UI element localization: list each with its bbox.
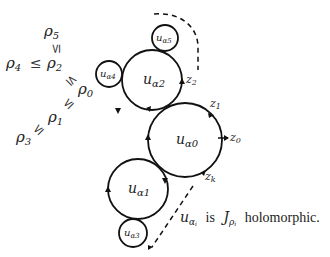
orientation-arrow-icon bbox=[115, 108, 121, 114]
label-u-alpha4: uα4 bbox=[100, 68, 116, 81]
bubble-tree-diagram: uα0 uα1 uα2 uα3 uα4 uα5 z0 z1 z2 zk ρ5 ≤… bbox=[0, 0, 330, 257]
orientation-arrow-icon bbox=[105, 186, 111, 192]
label-u-alpha2: uα2 bbox=[143, 71, 165, 89]
label-u-alpha1: uα1 bbox=[128, 180, 150, 198]
label-z2: z2 bbox=[185, 73, 197, 87]
orientation-arrow-icon bbox=[145, 134, 151, 140]
label-u-alpha0: uα0 bbox=[176, 131, 199, 149]
label-u-alpha5: uα5 bbox=[156, 32, 172, 45]
label-z0: z0 bbox=[229, 131, 241, 145]
leq-rho2-rho5: ≤ bbox=[48, 43, 63, 54]
rho-4: ρ4 bbox=[5, 54, 21, 73]
rho-3: ρ3 bbox=[15, 128, 31, 147]
orientation-arrow-icon bbox=[179, 78, 185, 84]
rho-2: ρ2 bbox=[46, 54, 62, 73]
leq-rho1-rho0: ≤ bbox=[59, 94, 77, 112]
label-u-alpha3: uα3 bbox=[124, 227, 140, 240]
caption: uαi is Jρi holomorphic. bbox=[180, 209, 320, 229]
label-zk: zk bbox=[204, 170, 216, 184]
label-z1: z1 bbox=[209, 97, 221, 111]
rho-1: ρ1 bbox=[47, 108, 63, 127]
rho-5: ρ5 bbox=[43, 22, 59, 41]
z0-arrow-icon bbox=[224, 135, 229, 141]
rho-0: ρ0 bbox=[77, 80, 94, 99]
leq-rho4-rho2: ≤ bbox=[30, 55, 42, 71]
leq-rho3-rho1: ≤ bbox=[29, 120, 47, 138]
